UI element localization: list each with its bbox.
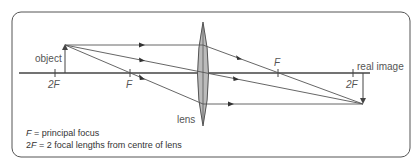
two-f-left-label: 2F bbox=[47, 79, 61, 90]
object-label: object bbox=[35, 53, 62, 64]
ray-arrow-icon bbox=[139, 74, 145, 80]
real-image-label: real image bbox=[357, 61, 404, 72]
central-ray bbox=[65, 45, 363, 104]
legend: F = principal focus 2F = 2 focal lengths… bbox=[26, 128, 182, 150]
ray-diagram: object 2F F lens F real image 2F F = pri… bbox=[0, 0, 418, 167]
ray-arrow-icon bbox=[236, 55, 242, 60]
f-right-label: F bbox=[274, 57, 281, 68]
ray-arrow-icon bbox=[139, 43, 145, 48]
legend-line-2: 2F = 2 focal lengths from centre of lens bbox=[26, 140, 182, 150]
legend-line-1: F = principal focus bbox=[26, 128, 100, 138]
two-f-right-label: 2F bbox=[345, 79, 359, 90]
ray-arrow-icon bbox=[233, 76, 239, 81]
f-left-label: F bbox=[126, 79, 133, 90]
ray-arrow-icon bbox=[228, 102, 234, 107]
lens-label: lens bbox=[177, 114, 195, 125]
ray-arrow-icon bbox=[139, 57, 145, 62]
